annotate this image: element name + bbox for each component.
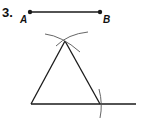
point-a-dot [28,10,32,14]
compass-arcs [45,32,101,118]
equilateral-triangle [31,41,136,104]
segment-ab [28,10,102,14]
construction-diagram [0,0,142,132]
point-b-dot [98,10,102,14]
arc-from-left [45,34,80,52]
